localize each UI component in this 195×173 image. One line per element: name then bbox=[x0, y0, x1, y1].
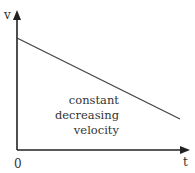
x-axis-arrow-icon bbox=[180, 146, 190, 154]
y-axis-label: v bbox=[4, 9, 11, 21]
annotation-line-2: decreasing bbox=[50, 108, 119, 123]
annotation-line-1: constant bbox=[50, 93, 119, 108]
y-axis-arrow-icon bbox=[13, 10, 21, 20]
annotation-line-3: velocity bbox=[50, 123, 119, 138]
velocity-time-graph bbox=[0, 0, 195, 173]
x-axis-label: t bbox=[183, 156, 188, 168]
annotation: constant decreasing velocity bbox=[50, 93, 119, 138]
origin-label: 0 bbox=[14, 158, 22, 170]
